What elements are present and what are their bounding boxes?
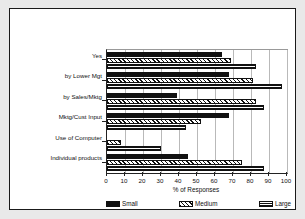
bar-small bbox=[107, 93, 177, 98]
bar-medium bbox=[107, 78, 253, 83]
gridline bbox=[287, 50, 288, 173]
bar-medium bbox=[107, 58, 231, 63]
y-axis-tick bbox=[102, 121, 106, 122]
bar-large bbox=[107, 166, 264, 171]
legend-item-medium: Medium bbox=[179, 200, 217, 207]
bar-medium bbox=[107, 119, 201, 124]
x-axis-tick-label: 80 bbox=[240, 178, 260, 184]
x-axis-tick-label: 0 bbox=[96, 178, 116, 184]
bar-group bbox=[107, 113, 287, 130]
x-axis-tick bbox=[160, 172, 161, 176]
chart-frame: Yes by Lower Mgt by Sales/Mktg Mktg/Cust… bbox=[9, 8, 296, 210]
y-axis-label-2: by Sales/Mktg bbox=[63, 94, 102, 100]
x-axis-tick bbox=[178, 172, 179, 176]
bar-small bbox=[107, 52, 222, 57]
y-axis-tick bbox=[102, 59, 106, 60]
x-axis-tick-label: 50 bbox=[186, 178, 206, 184]
legend-item-small: Small bbox=[106, 200, 138, 207]
x-axis-tick-label: 100 bbox=[276, 178, 296, 184]
x-axis-tick bbox=[196, 172, 197, 176]
x-axis-tick bbox=[124, 172, 125, 176]
x-axis-tick bbox=[232, 172, 233, 176]
bar-large bbox=[107, 64, 256, 69]
bar-group bbox=[107, 134, 287, 151]
legend-item-large: Large bbox=[259, 200, 291, 207]
legend-swatch-small-icon bbox=[106, 201, 120, 207]
x-axis-tick bbox=[106, 172, 107, 176]
bar-group bbox=[107, 93, 287, 110]
legend-swatch-medium-icon bbox=[179, 201, 193, 207]
x-axis-tick-label: 10 bbox=[114, 178, 134, 184]
bar-medium bbox=[107, 140, 121, 145]
x-axis-tick-label: 70 bbox=[222, 178, 242, 184]
bar-medium bbox=[107, 99, 256, 104]
plot-area bbox=[106, 49, 288, 174]
x-axis-tick bbox=[286, 172, 287, 176]
x-axis-tick-label: 40 bbox=[168, 178, 188, 184]
bar-small bbox=[107, 154, 188, 159]
bar-large bbox=[107, 105, 264, 110]
bar-large bbox=[107, 125, 186, 130]
bar-group bbox=[107, 52, 287, 69]
y-axis-label-3: Mktg/Cust Input bbox=[59, 114, 102, 120]
bar-large bbox=[107, 146, 161, 151]
bar-small bbox=[107, 113, 229, 118]
bar-small bbox=[107, 72, 229, 77]
y-axis-label-5: Individual products bbox=[50, 155, 102, 161]
y-axis-tick bbox=[102, 80, 106, 81]
x-axis-tick-label: 60 bbox=[204, 178, 224, 184]
legend-label-medium: Medium bbox=[195, 200, 217, 207]
y-axis-tick bbox=[102, 162, 106, 163]
x-axis-tick bbox=[250, 172, 251, 176]
figure-container: Yes by Lower Mgt by Sales/Mktg Mktg/Cust… bbox=[0, 0, 305, 219]
x-axis-tick bbox=[142, 172, 143, 176]
x-axis-title: % of Responses bbox=[106, 187, 286, 193]
x-axis-tick bbox=[214, 172, 215, 176]
y-axis-label-4: Use of Computer bbox=[55, 135, 102, 141]
x-axis-tick bbox=[268, 172, 269, 176]
legend-label-small: Small bbox=[122, 200, 138, 207]
y-axis-tick bbox=[102, 100, 106, 101]
bar-group bbox=[107, 154, 287, 171]
legend-swatch-large-icon bbox=[259, 201, 273, 207]
y-axis-label-0: Yes bbox=[92, 53, 102, 59]
bar-group bbox=[107, 72, 287, 89]
x-axis-tick-label: 90 bbox=[258, 178, 278, 184]
y-axis-label-1: by Lower Mgt bbox=[65, 73, 102, 79]
bar-large bbox=[107, 84, 282, 89]
x-axis-tick-label: 20 bbox=[132, 178, 152, 184]
x-axis-tick-label: 30 bbox=[150, 178, 170, 184]
y-axis-tick bbox=[102, 141, 106, 142]
legend-label-large: Large bbox=[275, 200, 291, 207]
chart-legend: Small Medium Large bbox=[106, 200, 291, 207]
bar-medium bbox=[107, 160, 242, 165]
